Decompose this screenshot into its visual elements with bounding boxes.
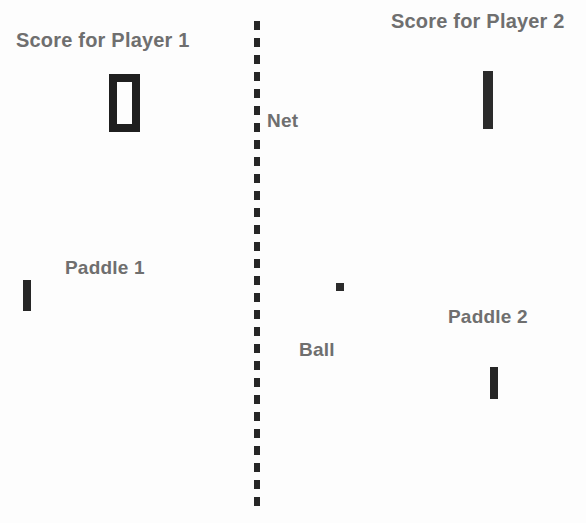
score-player1-label: Score for Player 1 — [16, 29, 190, 52]
net-label: Net — [267, 110, 298, 132]
paddle-right[interactable] — [490, 367, 498, 399]
paddle2-label: Paddle 2 — [448, 306, 528, 328]
score-player1-value — [109, 74, 140, 132]
ball — [336, 283, 344, 291]
score-player2-label: Score for Player 2 — [391, 10, 565, 33]
ball-label: Ball — [299, 339, 335, 361]
paddle1-label: Paddle 1 — [65, 257, 145, 279]
net-dashed-line — [254, 21, 260, 508]
pong-game-canvas: Score for Player 1 Score for Player 2 Ne… — [0, 0, 586, 523]
score-player2-value — [483, 71, 493, 129]
paddle-left[interactable] — [23, 280, 31, 311]
